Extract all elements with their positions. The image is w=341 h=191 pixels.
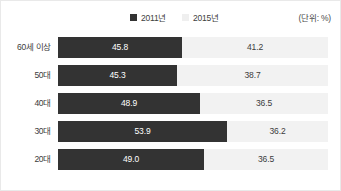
chart-row: 30대53.936.2	[1, 121, 341, 142]
chart-row: 60세 이상45.841.2	[1, 37, 341, 58]
unit-label: (단위: %)	[298, 11, 331, 23]
bar-value-2015: 38.7	[177, 65, 328, 86]
legend-label-2015: 2015년	[193, 11, 219, 23]
bar-value-2015: 36.5	[200, 93, 328, 114]
bar-value-2011: 48.9	[58, 93, 200, 114]
bar-track-2015: 45.338.7	[58, 65, 328, 86]
bar-value-2015: 36.2	[227, 121, 328, 142]
bar-value-2011: 45.8	[58, 37, 182, 58]
chart-container: 2011년 2015년 (단위: %) 60세 이상45.841.250대45.…	[0, 0, 341, 191]
bar-track-2015: 49.036.5	[58, 149, 328, 170]
category-label: 20대	[1, 149, 51, 170]
bar-value-2011: 45.3	[58, 65, 177, 86]
bar-track-2015: 48.936.5	[58, 93, 328, 114]
bar-track-2015: 45.841.2	[58, 37, 328, 58]
legend-swatch-2011-icon	[130, 14, 137, 21]
bar-value-2015: 36.5	[204, 149, 328, 170]
legend-swatch-2015-icon	[182, 14, 189, 21]
bar-value-2011: 53.9	[58, 121, 227, 142]
chart-row: 50대45.338.7	[1, 65, 341, 86]
category-label: 60세 이상	[1, 37, 51, 58]
category-label: 40대	[1, 93, 51, 114]
category-label: 30대	[1, 121, 51, 142]
legend-item-2011[interactable]: 2011년	[130, 11, 166, 23]
plot-area: 60세 이상45.841.250대45.338.740대48.936.530대5…	[1, 33, 341, 185]
category-label: 50대	[1, 65, 51, 86]
bar-track-2015: 53.936.2	[58, 121, 328, 142]
legend-label-2011: 2011년	[141, 11, 166, 23]
bar-value-2015: 41.2	[182, 37, 328, 58]
bar-value-2011: 49.0	[58, 149, 204, 170]
legend-item-2015[interactable]: 2015년	[182, 11, 219, 23]
chart-legend: 2011년 2015년 (단위: %)	[1, 9, 341, 27]
chart-row: 20대49.036.5	[1, 149, 341, 170]
chart-row: 40대48.936.5	[1, 93, 341, 114]
